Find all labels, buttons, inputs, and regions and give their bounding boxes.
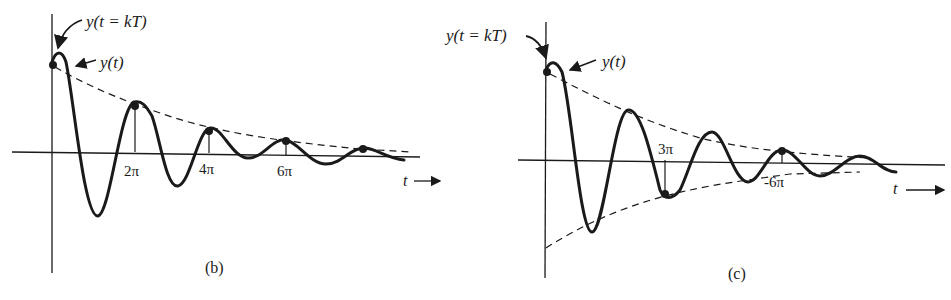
signal-curve bbox=[546, 63, 896, 232]
sample-label: y(t = kT) bbox=[444, 26, 507, 45]
sample-point bbox=[49, 61, 57, 69]
arrow-sample-label bbox=[526, 36, 546, 58]
sample-point bbox=[778, 147, 786, 155]
caption-c: (c) bbox=[728, 265, 746, 283]
sample-point bbox=[131, 102, 139, 110]
signal-label: y(t) bbox=[98, 53, 124, 72]
panel-c: y(t = kT) y(t) 3π -6π t (c) bbox=[444, 22, 945, 283]
signal-curve bbox=[52, 53, 404, 216]
arrow-sample-label bbox=[58, 20, 82, 48]
figure: y(t = kT) y(t) 2π 4π 6π t (b) y(t = kT) … bbox=[0, 0, 951, 300]
tick-label: 2π bbox=[124, 163, 140, 179]
sample-point bbox=[661, 190, 669, 198]
sample-point bbox=[359, 145, 367, 153]
tick-label: 4π bbox=[199, 161, 215, 177]
arrow-signal-label bbox=[570, 60, 596, 70]
y-axis bbox=[545, 22, 546, 278]
t-axis-label: t bbox=[403, 172, 408, 189]
panel-b: y(t = kT) y(t) 2π 4π 6π t (b) bbox=[12, 12, 440, 277]
tick-label: 3π bbox=[658, 141, 674, 157]
caption-b: (b) bbox=[205, 259, 224, 277]
upper-envelope bbox=[550, 74, 870, 158]
tick-label: 6π bbox=[277, 163, 293, 179]
t-axis bbox=[12, 152, 420, 157]
lower-envelope bbox=[546, 172, 860, 248]
sample-point bbox=[282, 137, 290, 145]
signal-label: y(t) bbox=[600, 52, 626, 71]
t-axis-label: t bbox=[893, 180, 898, 197]
tick-label: -6π bbox=[764, 174, 784, 190]
sample-point bbox=[205, 127, 213, 135]
decay-envelope bbox=[55, 67, 412, 152]
arrow-signal-label bbox=[76, 60, 96, 66]
sample-point bbox=[543, 68, 551, 76]
sample-label: y(t = kT) bbox=[84, 12, 147, 31]
